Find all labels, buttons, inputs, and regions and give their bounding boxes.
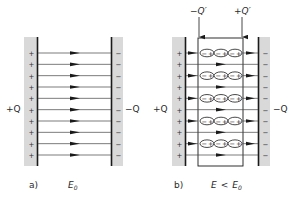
svg-text:−: −	[216, 118, 221, 126]
dipole: −+	[200, 95, 214, 103]
plus-charge: +	[29, 73, 35, 81]
dipole: −+	[214, 72, 228, 80]
svg-text:+: +	[208, 118, 213, 126]
plus-charge: +	[29, 107, 35, 115]
minus-charge: −	[263, 141, 269, 149]
panel-b: −Q′ +Q′ −+−+−+−+−+−+−+−+−+−+−+−+−+−+−+ +…	[153, 6, 288, 191]
dipole: −+	[200, 117, 214, 125]
minus-charge: −	[116, 95, 122, 103]
arrowhead-icon	[246, 97, 255, 101]
right-charge-label-b: −Q	[273, 104, 288, 114]
arrowhead-icon	[246, 142, 255, 146]
dipole: −+	[214, 117, 228, 125]
svg-text:+: +	[208, 50, 213, 58]
minus-charge: −	[263, 50, 269, 58]
svg-text:+: +	[208, 95, 213, 103]
svg-text:−: −	[202, 118, 207, 126]
minus-charge: −	[116, 118, 122, 126]
svg-text:−: −	[202, 95, 207, 103]
svg-text:−: −	[216, 72, 221, 80]
arrowhead-icon	[70, 142, 80, 146]
arrowhead-icon	[70, 97, 80, 101]
plus-charge: +	[177, 129, 183, 137]
plus-charge: +	[177, 107, 183, 115]
arrowhead-icon	[70, 153, 80, 157]
plus-charge: +	[177, 152, 183, 160]
svg-text:−: −	[230, 118, 235, 126]
plus-charge: +	[177, 118, 183, 126]
arrowhead-icon	[70, 63, 80, 67]
arrowhead-icon	[246, 119, 255, 123]
dipole: −+	[228, 49, 242, 57]
minus-charge: −	[116, 61, 122, 69]
minus-charge: −	[263, 84, 269, 92]
arrowhead-icon	[188, 74, 197, 78]
svg-text:+: +	[222, 50, 227, 58]
left-charge-label-a: +Q	[6, 104, 21, 114]
arrowhead-icon	[70, 108, 80, 112]
svg-text:+: +	[208, 140, 213, 148]
field-label-a: E0	[68, 180, 78, 191]
field-relation-b: E<E0	[211, 180, 242, 191]
plus-charge: +	[29, 118, 35, 126]
minus-charge: −	[116, 152, 122, 160]
dipole: −+	[228, 117, 242, 125]
dipole: −+	[228, 140, 242, 148]
svg-text:+: +	[222, 118, 227, 126]
svg-text:−: −	[230, 50, 235, 58]
arrowhead-icon	[246, 74, 255, 78]
left-charge-label-b: +Q	[153, 104, 168, 114]
arrowhead-icon	[216, 63, 226, 67]
svg-text:−: −	[202, 72, 207, 80]
arrowhead-icon	[216, 131, 226, 135]
panel-label-a: a)	[29, 180, 38, 190]
induced-neg-label: −Q′	[190, 6, 207, 16]
svg-text:−: −	[216, 50, 221, 58]
dipole: −+	[200, 49, 214, 57]
minus-charge: −	[263, 73, 269, 81]
arrowhead-icon	[188, 51, 197, 55]
arrowhead-icon	[216, 85, 226, 89]
plus-charge: +	[29, 95, 35, 103]
dipole: −+	[214, 95, 228, 103]
minus-charge: −	[116, 141, 122, 149]
svg-text:+: +	[222, 72, 227, 80]
minus-charge: −	[263, 95, 269, 103]
minus-charge: −	[263, 152, 269, 160]
dipole: −+	[228, 72, 242, 80]
minus-charge: −	[263, 129, 269, 137]
minus-charge: −	[116, 129, 122, 137]
svg-text:+: +	[208, 72, 213, 80]
capacitor-dielectric-figure: +−+−+−+−+−+−+−+−+−+− +Q −Q a) E0 −Q′ +Q′…	[0, 0, 290, 197]
dipole: −+	[214, 140, 228, 148]
plus-charge: +	[177, 50, 183, 58]
arrowhead-icon	[246, 51, 255, 55]
svg-text:−: −	[230, 95, 235, 103]
dipole: −+	[200, 72, 214, 80]
plus-charge: +	[177, 84, 183, 92]
plus-charge: +	[29, 152, 35, 160]
svg-text:+: +	[236, 50, 241, 58]
svg-text:−: −	[216, 95, 221, 103]
svg-text:−: −	[230, 72, 235, 80]
svg-text:+: +	[236, 118, 241, 126]
field-lines-a	[38, 51, 111, 157]
svg-text:+: +	[236, 72, 241, 80]
svg-text:−: −	[202, 50, 207, 58]
induced-pos-label: +Q′	[234, 6, 251, 16]
plus-charge: +	[29, 129, 35, 137]
svg-text:+: +	[236, 95, 241, 103]
minus-charge: −	[263, 118, 269, 126]
plus-charge: +	[29, 61, 35, 69]
arrowhead-icon	[188, 97, 197, 101]
svg-text:−: −	[230, 140, 235, 148]
arrowhead-icon	[70, 119, 80, 123]
minus-charge: −	[116, 50, 122, 58]
minus-charge: −	[116, 73, 122, 81]
svg-text:+: +	[236, 140, 241, 148]
minus-charge: −	[116, 84, 122, 92]
svg-text:−: −	[202, 140, 207, 148]
arrowhead-icon	[188, 142, 197, 146]
right-charge-label-a: −Q	[125, 104, 140, 114]
arrowhead-icon	[70, 51, 80, 55]
